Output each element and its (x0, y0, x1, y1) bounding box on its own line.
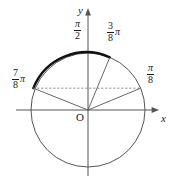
seven-eighths-pi-symbol: π (20, 74, 25, 84)
radius-seven-eighths-pi (33, 88, 88, 110)
y-axis-label: y (78, 5, 83, 16)
angle-label-three-eighths-pi: 3 8 π (107, 16, 120, 43)
pi-over-8-numerator: π (147, 63, 154, 74)
angle-label-pi-over-8: π 8 (147, 63, 154, 85)
y-axis-arrowhead (85, 8, 91, 15)
seven-eighths-pi-denominator: 8 (12, 79, 19, 91)
x-axis-label: x (161, 113, 166, 124)
angle-label-pi-over-2: π 2 (74, 19, 81, 41)
seven-eighths-pi-numerator: 7 (12, 68, 19, 79)
pi-over-2-denominator: 2 (74, 30, 81, 42)
origin-label: O (76, 112, 84, 123)
x-axis-arrowhead (152, 107, 159, 113)
pi-over-8-denominator: 8 (147, 74, 154, 86)
highlighted-arc (33, 52, 109, 88)
three-eighths-pi-denominator: 8 (107, 32, 114, 44)
three-eighths-pi-numerator: 3 (107, 21, 114, 32)
pi-over-2-numerator: π (74, 19, 81, 30)
angle-label-seven-eighths-pi: 7 8 π (12, 63, 25, 90)
unit-circle-figure (0, 0, 174, 184)
three-eighths-pi-symbol: π (115, 27, 120, 37)
